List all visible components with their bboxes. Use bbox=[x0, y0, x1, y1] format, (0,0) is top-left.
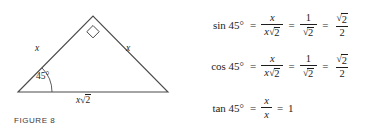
sin-frac1-numerator: x bbox=[267, 12, 278, 24]
sin-frac2-den-radicand: 2 bbox=[307, 27, 314, 39]
right-angle-marker-icon bbox=[87, 26, 99, 38]
sin-frac2-denominator: √2 bbox=[300, 24, 318, 39]
triangle-side-label-left: x bbox=[35, 44, 39, 54]
cos-frac2-numerator: 1 bbox=[303, 53, 314, 65]
equals-sign: = bbox=[245, 102, 261, 114]
equals-sign: = bbox=[317, 19, 333, 31]
equations-panel: sin 45° = x x√2 = 1 √2 = √2 2 cos 45° = … bbox=[188, 0, 375, 138]
cos-fraction-2: 1 √2 bbox=[300, 53, 318, 80]
equation-row-cos: cos 45° = x x√2 = 1 √2 = √2 2 bbox=[188, 53, 351, 80]
cos-frac1-den-radical: √2 bbox=[269, 68, 281, 80]
cos-frac1-den-radicand: 2 bbox=[274, 68, 281, 80]
cos-function-label: cos 45° bbox=[188, 60, 245, 72]
tan-result: 1 bbox=[288, 102, 294, 114]
figure-page: x x 45° x√2 FIGURE 8 sin 45° = x x√2 = 1… bbox=[0, 0, 375, 138]
cos-frac2-denominator: √2 bbox=[300, 65, 318, 80]
sin-function-label: sin 45° bbox=[188, 19, 245, 31]
cos-frac2-den-radical: √2 bbox=[303, 68, 315, 80]
equals-sign: = bbox=[317, 60, 333, 72]
sin-frac1-denominator: x√2 bbox=[261, 24, 283, 39]
sin-frac3-num-radicand: 2 bbox=[341, 13, 348, 25]
cos-frac3-num-radical: √2 bbox=[336, 54, 348, 66]
sin-fraction-2: 1 √2 bbox=[300, 12, 318, 39]
tan-fraction-1: x x bbox=[261, 95, 272, 121]
cos-frac3-denominator: 2 bbox=[336, 67, 347, 80]
equals-sign: = bbox=[283, 19, 299, 31]
equals-sign: = bbox=[245, 60, 261, 72]
base-label-radicand: 2 bbox=[85, 94, 91, 105]
sin-frac3-denominator: 2 bbox=[336, 26, 347, 39]
sin-frac2-numerator: 1 bbox=[303, 12, 314, 24]
equation-row-sin: sin 45° = x x√2 = 1 √2 = √2 2 bbox=[188, 12, 351, 39]
equals-sign: = bbox=[272, 102, 288, 114]
sin-frac2-den-radical: √2 bbox=[303, 27, 315, 39]
triangle-side-label-right: x bbox=[126, 44, 130, 54]
cos-frac1-numerator: x bbox=[267, 53, 278, 65]
triangle-angle-label: 45° bbox=[36, 72, 49, 82]
cos-frac3-num-radicand: 2 bbox=[341, 54, 348, 66]
sin-frac3-numerator: √2 bbox=[333, 12, 351, 26]
tan-frac1-numerator: x bbox=[261, 95, 272, 107]
sin-frac3-num-radical: √2 bbox=[336, 13, 348, 25]
triangle-figure-panel: x x 45° x√2 FIGURE 8 bbox=[0, 0, 188, 138]
equals-sign: = bbox=[283, 60, 299, 72]
cos-frac2-den-radicand: 2 bbox=[307, 68, 314, 80]
cos-frac3-numerator: √2 bbox=[333, 53, 351, 67]
tan-function-label: tan 45° bbox=[188, 102, 245, 114]
figure-caption: FIGURE 8 bbox=[14, 116, 55, 125]
equation-row-tan: tan 45° = x x = 1 bbox=[188, 95, 294, 121]
tan-frac1-denominator: x bbox=[261, 107, 272, 120]
sin-frac1-den-radicand: 2 bbox=[274, 27, 281, 39]
cos-frac1-denominator: x√2 bbox=[261, 65, 283, 80]
cos-fraction-3: √2 2 bbox=[333, 53, 351, 80]
equals-sign: = bbox=[245, 19, 261, 31]
triangle-base-label: x√2 bbox=[76, 96, 91, 106]
sin-fraction-1: x x√2 bbox=[261, 12, 283, 39]
base-label-radical: √2 bbox=[80, 96, 90, 106]
cos-fraction-1: x x√2 bbox=[261, 53, 283, 80]
sin-frac1-den-radical: √2 bbox=[269, 27, 281, 39]
sin-fraction-3: √2 2 bbox=[333, 12, 351, 39]
